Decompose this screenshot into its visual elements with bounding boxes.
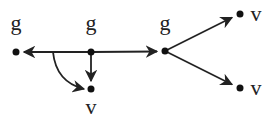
edge-g3-to-v2 bbox=[165, 18, 232, 52]
node-v1 bbox=[88, 86, 95, 93]
label-v3: v bbox=[251, 75, 262, 100]
node-g2 bbox=[88, 49, 95, 56]
graph-diagram: g g v g v v bbox=[0, 0, 264, 121]
node-v2 bbox=[237, 11, 244, 18]
edge-curved-to-v1 bbox=[53, 52, 84, 89]
node-v3 bbox=[237, 85, 244, 92]
edge-g3-to-v3 bbox=[165, 51, 232, 85]
edge-g2-to-g3 bbox=[91, 52, 157, 53]
node-g1 bbox=[13, 49, 20, 56]
label-g2: g bbox=[86, 10, 97, 35]
node-g3 bbox=[162, 48, 169, 55]
label-g1: g bbox=[11, 10, 22, 35]
label-g3: g bbox=[160, 10, 171, 35]
label-v2: v bbox=[251, 1, 262, 26]
label-v1: v bbox=[86, 94, 97, 119]
